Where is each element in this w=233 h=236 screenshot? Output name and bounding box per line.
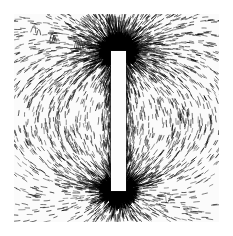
magnetic-field-figure: Dense black iron filings on white paper … [0,0,233,236]
bar-magnet [111,51,126,191]
